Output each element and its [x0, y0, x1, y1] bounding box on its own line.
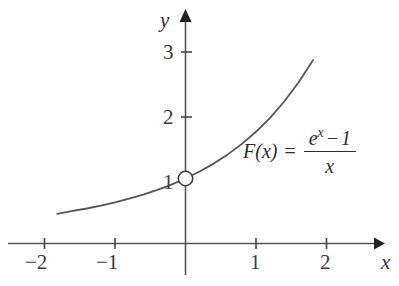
function-graph-figure: −2 −1 1 2 1 2 3 y x F(x) = ex−1 x [0, 0, 399, 286]
y-axis-arrowhead [180, 9, 192, 22]
y-tick-label-3: 3 [163, 42, 174, 63]
x-axis-name: x [381, 252, 390, 273]
formula-numerator-operator: − [324, 127, 341, 149]
function-formula-label: F(x) = ex−1 x [243, 126, 356, 177]
y-axis [180, 9, 192, 275]
open-circle-hole [178, 171, 192, 185]
x-axis-arrowhead [374, 238, 385, 250]
formula-numerator-term: 1 [341, 127, 351, 149]
formula-numerator: ex−1 [304, 126, 356, 151]
formula-numerator-base: e [309, 127, 318, 149]
x-tick-label-minus-2: −2 [25, 252, 47, 273]
y-axis-ticks [181, 52, 192, 182]
formula-denominator: x [320, 152, 339, 177]
formula-equals: = [284, 140, 295, 163]
x-tick-label-1: 1 [250, 252, 261, 273]
formula-lhs: F(x) [243, 140, 277, 163]
y-tick-label-1: 1 [163, 172, 174, 193]
formula-numerator-exponent: x [318, 125, 324, 140]
x-tick-label-minus-1: −1 [96, 252, 118, 273]
y-tick-label-2: 2 [163, 107, 174, 128]
formula-fraction: ex−1 x [304, 126, 356, 177]
y-axis-name: y [160, 10, 169, 31]
x-axis [8, 238, 385, 250]
x-tick-label-2: 2 [320, 252, 331, 273]
